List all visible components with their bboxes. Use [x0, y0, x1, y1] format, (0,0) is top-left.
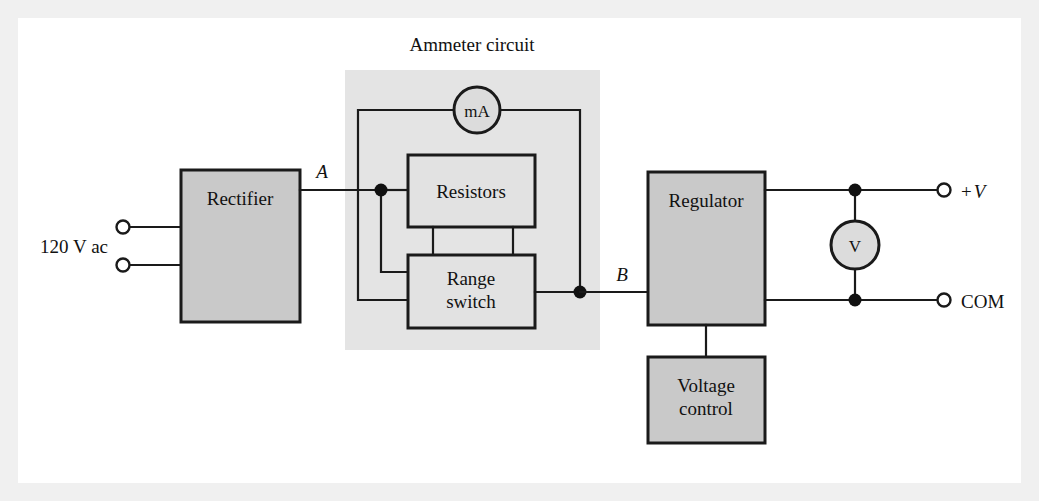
voltmeter-label: V	[849, 237, 862, 256]
voltage-control-label-line1: Voltage	[677, 375, 735, 396]
junction-dot-node-a	[375, 184, 388, 197]
voltage-control-label-line2: control	[679, 398, 733, 419]
terminal-ac-line-1[interactable]	[117, 221, 130, 234]
terminal-positive-label: +V	[961, 181, 988, 202]
junction-dot-voltmeter-top	[849, 184, 862, 197]
milliammeter-label: mA	[464, 102, 490, 121]
range-switch-label-line2: switch	[446, 291, 496, 312]
regulator-label: Regulator	[669, 190, 745, 211]
resistors-label: Resistors	[436, 181, 506, 202]
terminal-positive-sign: +	[961, 181, 972, 202]
node-b-label: B	[616, 264, 628, 285]
terminal-common-label: COM	[961, 291, 1004, 312]
junction-dot-voltmeter-bottom	[849, 294, 862, 307]
terminal-common-output[interactable]	[938, 294, 951, 307]
ac-source-label: 120 V ac	[40, 236, 108, 257]
ammeter-circuit-title: Ammeter circuit	[409, 34, 535, 55]
terminal-positive-v: V	[974, 181, 988, 202]
node-a-label: A	[314, 161, 328, 182]
range-switch-label-line1: Range	[447, 268, 496, 289]
terminal-ac-line-2[interactable]	[117, 259, 130, 272]
circuit-block-diagram: Ammeter circuit 120 V ac Rectifier A mA …	[0, 0, 1039, 501]
figure-frame: Ammeter circuit 120 V ac Rectifier A mA …	[0, 0, 1039, 501]
rectifier-label: Rectifier	[207, 188, 274, 209]
terminal-positive-output[interactable]	[938, 184, 951, 197]
